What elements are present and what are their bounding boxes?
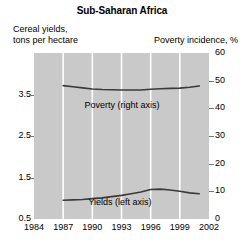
- ytick-label-right-10: 10: [215, 185, 225, 195]
- plot-canvas: [34, 53, 209, 219]
- ytick-label-right-50: 50: [215, 75, 225, 85]
- series-annotation-yields: Yields (left axis): [65, 197, 175, 207]
- xtick-label-2002: 2002: [189, 222, 229, 232]
- ytick-mark-left-3.5: [29, 95, 34, 96]
- ytick-label-right-20: 20: [215, 158, 225, 168]
- ytick-mark-right-40: [209, 108, 214, 109]
- ytick-label-left-1.5: 1.5: [18, 172, 31, 182]
- chart-figure: Sub-Saharan Africa Cereal yields, tons p…: [0, 0, 244, 245]
- right-axis-caption: Poverty incidence, %: [154, 35, 238, 46]
- ytick-label-left-3.5: 3.5: [18, 89, 31, 99]
- ytick-label-right-60: 60: [215, 47, 225, 57]
- left-axis-caption-line1: Cereal yields,: [13, 24, 78, 35]
- ytick-mark-right-30: [209, 136, 214, 137]
- plot-area: [34, 53, 209, 219]
- ytick-mark-right-20: [209, 164, 214, 165]
- left-axis-caption: Cereal yields, tons per hectare: [13, 24, 78, 46]
- ytick-label-left-2.5: 2.5: [18, 130, 31, 140]
- left-axis-caption-line2: tons per hectare: [13, 35, 78, 46]
- ytick-mark-right-10: [209, 191, 214, 192]
- ytick-mark-left-1.5: [29, 178, 34, 179]
- series-annotation-poverty: Poverty (right axis): [67, 100, 177, 110]
- ytick-label-right-30: 30: [215, 130, 225, 140]
- ytick-mark-left-2.5: [29, 136, 34, 137]
- ytick-mark-right-50: [209, 81, 214, 82]
- ytick-label-right-40: 40: [215, 102, 225, 112]
- series-line-poverty: [63, 86, 199, 90]
- chart-title: Sub-Saharan Africa: [0, 5, 244, 16]
